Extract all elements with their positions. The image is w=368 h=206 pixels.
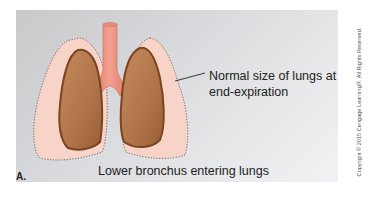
callout-line-1: Normal size of lungs at — [209, 68, 336, 84]
callout-label: Normal size of lungs at end-expiration — [209, 68, 336, 100]
panel-label: A. — [16, 171, 26, 182]
copyright-notice: Copyright © 2015 Cengage Learning®. All … — [356, 28, 362, 177]
figure-caption: Lower bronchus entering lungs — [98, 164, 269, 178]
callout-leader-line — [175, 73, 205, 81]
callout-line-2: end-expiration — [209, 84, 336, 100]
trachea-top — [103, 23, 117, 27]
